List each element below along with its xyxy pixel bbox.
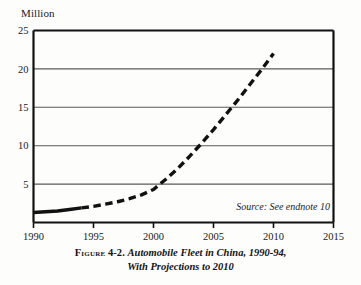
y-tick-label-10: 10	[18, 140, 29, 151]
series-line-1	[82, 54, 274, 208]
figure-caption: Figure 4-2. Automobile Fleet in China, 1…	[0, 246, 361, 274]
y-tick-labels-group: 510152025	[18, 25, 29, 190]
caption-figure-word: Figure	[75, 247, 106, 258]
figure-container: Million 510152025 1990199520002005201020…	[0, 0, 361, 285]
caption-line-1: Automobile Fleet in China, 1990-94,	[128, 247, 287, 258]
x-tick-label-2005: 2005	[203, 231, 224, 242]
series-line-0	[34, 208, 82, 213]
data-series-group	[34, 54, 274, 213]
x-tick-label-1995: 1995	[83, 231, 104, 242]
x-tick-label-2010: 2010	[263, 231, 284, 242]
y-tick-label-15: 15	[18, 102, 29, 113]
caption-line-2: With Projections to 2010	[127, 261, 234, 272]
source-annotation: Source: See endnote 10	[236, 201, 330, 212]
axis-frame	[34, 31, 334, 223]
x-tick-label-2015: 2015	[323, 231, 344, 242]
gridlines-group	[34, 69, 334, 184]
y-tick-label-20: 20	[18, 64, 29, 75]
x-tick-label-2000: 2000	[143, 231, 164, 242]
y-tick-label-5: 5	[23, 179, 28, 190]
x-tick-label-1990: 1990	[23, 231, 44, 242]
caption-figure-number: 4-2.	[108, 247, 125, 258]
y-tick-label-25: 25	[18, 25, 29, 36]
x-tick-labels-group: 199019952000200520102015	[23, 231, 344, 242]
